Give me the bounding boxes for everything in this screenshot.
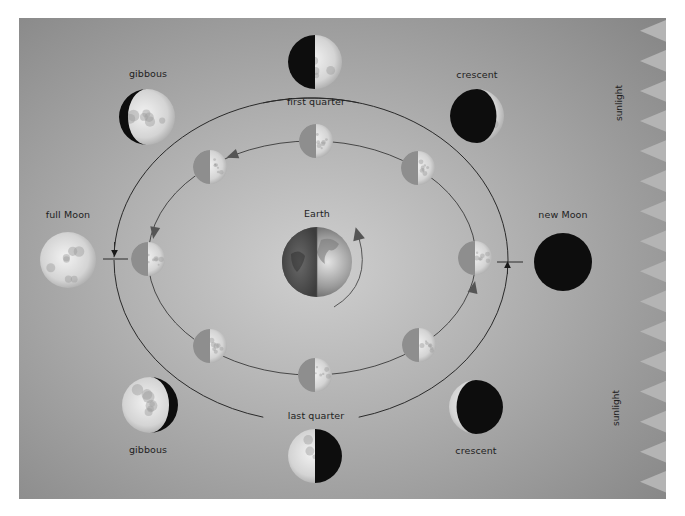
- last-quarter-moon: [288, 429, 342, 483]
- sunlight-label-bottom: sunlight: [611, 390, 621, 426]
- last-quarter-label: last quarter: [288, 410, 345, 421]
- waxing-crescent-moon: [450, 89, 504, 143]
- inner-moon-4: [193, 329, 227, 363]
- new-moon-label: new Moon: [538, 209, 587, 220]
- inner-moon-2: [193, 150, 227, 184]
- earth-label: Earth: [304, 208, 330, 219]
- first-quarter-label: first quarter: [287, 96, 345, 107]
- waning-gibbous-moon: [122, 377, 178, 433]
- inner-moon-7: [458, 241, 492, 275]
- waning-crescent-label: crescent: [455, 445, 496, 456]
- inner-moon-1: [299, 124, 333, 158]
- full-moon-moon: [40, 232, 96, 288]
- inner-moon-5: [298, 358, 332, 392]
- new-moon-moon: [534, 233, 592, 291]
- moon-phases-diagram: [0, 0, 685, 516]
- waxing-gibbous-label: gibbous: [129, 68, 167, 79]
- inner-moon-8: [401, 151, 435, 185]
- waning-gibbous-label: gibbous: [129, 444, 167, 455]
- waning-crescent-moon: [449, 380, 503, 434]
- sunlight-label-top: sunlight: [614, 85, 624, 121]
- first-quarter-moon: [288, 35, 342, 89]
- waxing-crescent-label: crescent: [456, 69, 497, 80]
- inner-moon-6: [402, 328, 436, 362]
- inner-moon-3: [131, 242, 165, 276]
- waxing-gibbous-moon: [119, 89, 175, 145]
- full-moon-label: full Moon: [46, 209, 90, 220]
